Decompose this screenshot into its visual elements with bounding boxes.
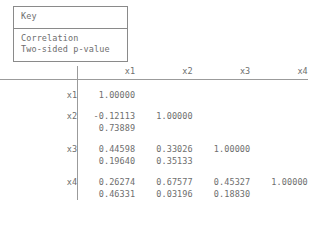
key-legend-body: Correlation Two-sided p-value [14,29,127,61]
cell-x4-x4: 1.00000 [250,177,308,200]
pvalue-value: 0.19640 [78,156,135,168]
column-header-x1: x1 [78,66,136,78]
table-row: x4 0.26274 0.46331 0.67577 0.03196 0.453… [0,177,322,200]
cell-x1-x3 [193,90,251,102]
pvalue-value: 0.73889 [78,123,135,135]
spacer-row-before-x1 [0,79,322,90]
correlation-value: 0.33026 [135,144,193,156]
cell-x4-x2: 0.67577 0.03196 [135,177,193,200]
correlation-matrix: x1 x2 x3 x4 x1 1. [0,66,322,200]
correlation-value: -0.12113 [78,111,135,123]
key-legend-header: Key [14,7,127,29]
correlation-table: x1 x2 x3 x4 x1 1. [0,66,322,200]
column-header-x2: x2 [135,66,193,78]
header-row: x1 x2 x3 x4 [0,66,322,78]
cell-x2-x1: -0.12113 0.73889 [78,111,136,134]
row-label-x4: x4 [0,177,78,200]
cell-x3-x1: 0.44598 0.19640 [78,144,136,167]
cell-x3-x4 [250,144,308,167]
pvalue-value: 0.35133 [135,156,193,168]
column-header-x4: x4 [250,66,308,78]
key-legend-title: Key [21,11,120,23]
key-legend-line-pvalue: Two-sided p-value [21,44,120,56]
spacer-row-before-x3 [0,134,322,144]
row-trailing-pad [308,144,322,167]
header-trailing-pad [308,66,322,78]
column-header-x3: x3 [193,66,251,78]
header-corner-cell [0,66,78,78]
cell-x1-x2 [135,90,193,102]
correlation-value: 1.00000 [135,111,193,123]
cell-x2-x2: 1.00000 [135,111,193,134]
table-header: x1 x2 x3 x4 [0,66,322,79]
correlation-value: 0.26274 [78,177,135,189]
key-legend-box: Key Correlation Two-sided p-value [13,6,128,62]
key-legend-line-correlation: Correlation [21,33,120,45]
table-row: x2 -0.12113 0.73889 1.00000 [0,111,322,134]
correlation-value: 0.45327 [193,177,251,189]
cell-x2-x4 [250,111,308,134]
row-label-x2: x2 [0,111,78,134]
pvalue-value: 0.03196 [135,189,193,201]
table-body: x1 1.00000 [0,79,322,200]
pvalue-value: 0.46331 [78,189,135,201]
cell-x4-x3: 0.45327 0.18830 [193,177,251,200]
row-trailing-pad [308,111,322,134]
correlation-value: 0.67577 [135,177,193,189]
row-trailing-pad [308,90,322,102]
cell-x4-x1: 0.26274 0.46331 [78,177,136,200]
table-row: x1 1.00000 [0,90,322,102]
cell-x2-x3 [193,111,251,134]
spacer-row-before-x2 [0,101,322,111]
row-label-x1: x1 [0,90,78,102]
spacer-row-before-x4 [0,167,322,177]
pvalue-value: 0.18830 [193,189,251,201]
cell-x1-x1: 1.00000 [78,90,136,102]
correlation-value: 1.00000 [193,144,251,156]
row-trailing-pad [308,177,322,200]
correlation-value: 1.00000 [250,177,308,189]
table-row: x3 0.44598 0.19640 0.33026 0.35133 1.000… [0,144,322,167]
cell-x3-x3: 1.00000 [193,144,251,167]
correlation-value: 0.44598 [78,144,135,156]
row-label-x3: x3 [0,144,78,167]
correlation-value: 1.00000 [78,90,135,102]
cell-x3-x2: 0.33026 0.35133 [135,144,193,167]
cell-x1-x4 [250,90,308,102]
